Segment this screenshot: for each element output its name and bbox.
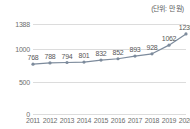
unit-note: (단위: 만 원) xyxy=(151,3,184,13)
data-point-marker xyxy=(184,32,187,35)
x-tick-label: 2012 xyxy=(43,117,57,124)
x-tick-label: 2011 xyxy=(26,117,40,124)
data-point-label: 852 xyxy=(113,49,124,56)
x-tick-label: 2017 xyxy=(128,117,142,124)
data-point-marker xyxy=(82,60,85,63)
data-point-label: 768 xyxy=(28,54,39,61)
plot-area: 050010001388 768788794801832852893928106… xyxy=(33,24,186,114)
y-tick-label: 500 xyxy=(19,78,30,85)
data-point-label: 1062 xyxy=(162,35,176,42)
gridline xyxy=(33,114,186,115)
data-point-label: 832 xyxy=(96,50,107,57)
data-point-label: 893 xyxy=(130,46,141,53)
data-point-label: 794 xyxy=(62,53,73,60)
x-tick-label: 2013 xyxy=(60,117,74,124)
data-point-marker xyxy=(150,52,153,55)
x-tick-label: 2018 xyxy=(145,117,159,124)
x-tick-label: 2015 xyxy=(94,117,108,124)
data-point-label: 788 xyxy=(45,53,56,60)
data-point-label: 801 xyxy=(79,52,90,59)
data-point-label: 928 xyxy=(147,44,158,51)
data-point-marker xyxy=(99,58,102,61)
y-tick-label: 1388 xyxy=(15,21,30,28)
x-tick-label: 2016 xyxy=(111,117,125,124)
y-tick-label: 1000 xyxy=(15,46,30,53)
line-chart: (단위: 만 원) 050010001388 76878879480183285… xyxy=(0,0,190,129)
data-point-label: 1235 xyxy=(179,24,190,31)
data-point-marker xyxy=(31,63,34,66)
data-point-marker xyxy=(133,55,136,58)
x-tick-label: 2014 xyxy=(77,117,91,124)
data-point-marker xyxy=(116,57,119,60)
data-point-marker xyxy=(48,61,51,64)
data-point-marker xyxy=(167,44,170,47)
data-point-marker xyxy=(65,61,68,64)
x-tick-label: 2019 xyxy=(162,117,176,124)
x-tick-label: 2020 xyxy=(179,117,190,124)
